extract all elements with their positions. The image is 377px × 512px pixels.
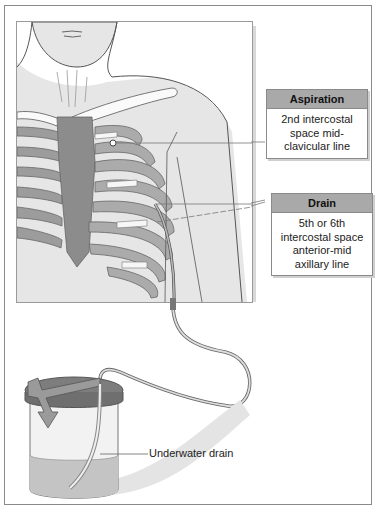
drain-callout: Drain 5th or 6th intercostal space anter… (271, 193, 373, 276)
aspiration-callout-title: Aspiration (267, 90, 367, 109)
chest-illustration-panel (16, 21, 253, 303)
chest-anatomy-illustration (17, 22, 252, 302)
aspiration-callout-text: 2nd intercostal space mid- clavicular li… (267, 109, 367, 158)
drain-line-1: 5th or 6th (276, 217, 368, 231)
aspiration-callout: Aspiration 2nd intercostal space mid- cl… (266, 89, 368, 159)
drain-line-3: anterior-mid (276, 244, 368, 258)
drain-line-4: axillary line (276, 258, 368, 272)
aspiration-line-3: clavicular line (271, 140, 363, 154)
underwater-drain-label: Underwater drain (149, 447, 233, 459)
aspiration-line-2: space mid- (271, 127, 363, 141)
drain-callout-title: Drain (272, 194, 372, 213)
aspiration-line-1: 2nd intercostal (271, 113, 363, 127)
drain-callout-text: 5th or 6th intercostal space anterior-mi… (272, 213, 372, 275)
drain-line-2: intercostal space (276, 231, 368, 245)
